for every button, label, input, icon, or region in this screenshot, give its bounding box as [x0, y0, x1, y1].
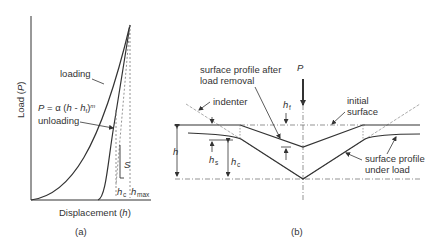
- hmax-label: h: [131, 186, 136, 197]
- loading-label: loading: [60, 68, 91, 79]
- hs-subscript: s: [215, 159, 219, 166]
- under-load-label-line1: surface profile: [365, 153, 425, 164]
- initial-surface-arrow: [332, 112, 345, 124]
- power-law-equation: P = α (h - hf)m: [38, 102, 95, 114]
- indentation-profile-panel: P h h c h s h f indenter surface profile…: [173, 62, 425, 237]
- under-load-label-line2: under load: [365, 164, 410, 175]
- indenter-label: indenter: [213, 96, 247, 107]
- hs-label: h: [209, 154, 214, 165]
- after-removal-label-line2: load removal: [200, 75, 254, 86]
- load-label: P: [297, 62, 304, 73]
- y-axis-label: Load (P): [15, 82, 26, 118]
- x-axis-label: Displacement (h): [59, 207, 131, 218]
- h-label: h: [173, 146, 178, 157]
- hmax-subscript: max: [137, 191, 150, 198]
- after-removal-arrow: [255, 87, 280, 138]
- initial-surface-label-line2: surface: [347, 106, 378, 117]
- hc-label: h: [117, 186, 122, 197]
- hf-subscript: f: [289, 104, 291, 111]
- under-load-arrow-2: [387, 137, 396, 154]
- unloading-curve: [98, 25, 130, 200]
- under-load-arrow-1: [346, 153, 362, 160]
- panel-b-caption: (b): [291, 226, 303, 237]
- hc-subscript: c: [237, 161, 241, 168]
- unloading-arrow: [80, 122, 113, 128]
- hc-subscript: c: [123, 191, 127, 198]
- unloading-label: unloading: [38, 115, 79, 126]
- after-removal-label-line1: surface profile after: [200, 64, 281, 75]
- stiffness-label: S: [124, 159, 131, 170]
- hf-label: h: [283, 99, 288, 110]
- loading-leader: [92, 79, 104, 84]
- panel-a-caption: (a): [75, 226, 87, 237]
- indenter-leader: [199, 102, 210, 110]
- initial-surface-label-line1: initial: [347, 95, 369, 106]
- hc-label: h: [231, 156, 236, 167]
- load-displacement-curve-panel: S h c h max loading P = α (h - hf)m unlo…: [15, 16, 151, 237]
- nanoindentation-figure: S h c h max loading P = α (h - hf)m unlo…: [0, 0, 437, 248]
